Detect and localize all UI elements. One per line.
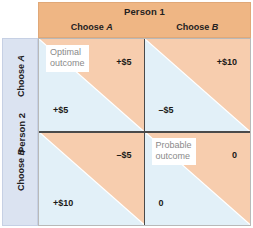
cell-diagonal-split-bl: [39, 132, 145, 225]
row-header-band: Person 2 Choose A Choose B: [2, 38, 38, 226]
person2-payoff-tr: –$5: [159, 105, 174, 115]
probable-outcome-callout: Probable outcome: [152, 138, 196, 165]
person1-payoff-bl: –$5: [116, 150, 131, 160]
cell-choose-a-choose-b: +$10 –$5: [145, 39, 251, 132]
column-header-choice-b-label: Choose B: [176, 22, 218, 32]
matrix-body: +$5 +$5 Optimal outcome +$10 –$5: [38, 38, 251, 226]
optimal-outcome-callout-line1: Optimal: [50, 47, 85, 58]
row-header-choice-b-label: Choose B: [12, 123, 30, 217]
person1-payoff-br: 0: [232, 150, 237, 160]
row-header-choice-a-label: Choose A: [12, 29, 30, 123]
column-header-band: Person 1 Choose A Choose B: [38, 2, 251, 38]
person1-payoff-tr: +$10: [217, 57, 237, 67]
person2-payoff-bl: +$10: [53, 198, 73, 208]
column-header-title: Person 1: [39, 6, 250, 17]
cell-choose-b-choose-a: –$5 +$10: [39, 132, 145, 225]
column-header-choice-a: Choose A: [39, 22, 145, 32]
cell-diagonal-split-tr: [145, 39, 251, 132]
person2-payoff-tl: +$5: [53, 105, 68, 115]
optimal-outcome-callout: Optimal outcome: [46, 45, 89, 72]
optimal-outcome-callout-line2: outcome: [50, 58, 85, 69]
probable-outcome-callout-line2: outcome: [156, 151, 192, 162]
column-header-choice-b: Choose B: [145, 22, 251, 32]
cell-choose-a-choose-a: +$5 +$5 Optimal outcome: [39, 39, 145, 132]
payoff-matrix-figure: Person 1 Choose A Choose B Person 2 Choo…: [0, 0, 253, 228]
person1-payoff-tl: +$5: [116, 57, 131, 67]
column-header-choice-a-label: Choose A: [71, 22, 113, 32]
probable-outcome-callout-line1: Probable: [156, 140, 192, 151]
person2-payoff-br: 0: [159, 198, 164, 208]
cell-choose-b-choose-b: 0 0 Probable outcome: [145, 132, 251, 225]
horizontal-divider: [39, 131, 250, 133]
